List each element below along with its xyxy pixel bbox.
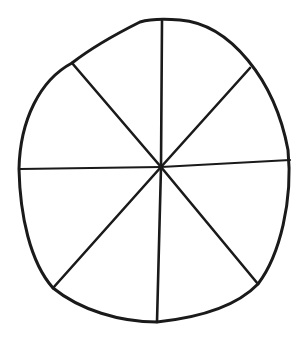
spoke-top-right — [161, 68, 250, 167]
circle-outline — [19, 19, 289, 322]
segmented-circle-diagram — [0, 0, 307, 339]
spoke-left — [20, 167, 161, 169]
spoke-top — [161, 21, 162, 167]
spoke-bottom-right — [161, 167, 258, 284]
spoke-bottom-left — [53, 167, 161, 288]
spoke-bottom — [157, 167, 161, 322]
spoke-right — [161, 160, 290, 167]
spokes-group — [20, 21, 290, 322]
diagram-canvas — [0, 0, 307, 339]
spoke-top-left — [72, 63, 161, 167]
